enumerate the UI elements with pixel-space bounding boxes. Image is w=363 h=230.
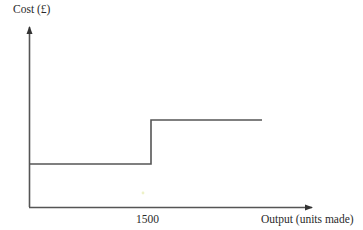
step-cost-line: [29, 120, 262, 164]
x-tick-label-1500: 1500: [136, 213, 159, 225]
y-axis-label: Cost (£): [13, 3, 50, 15]
x-axis-label: Output (units made): [261, 213, 354, 225]
speck-mark: [142, 192, 145, 195]
step-cost-graph: [0, 0, 363, 230]
